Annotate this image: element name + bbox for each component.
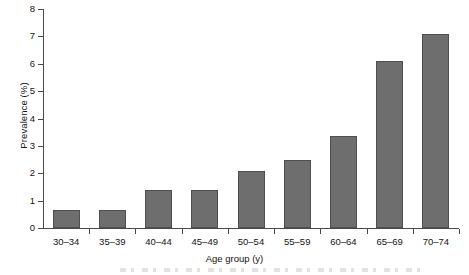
x-axis-tick <box>459 229 460 234</box>
y-axis-tick-label: 7 <box>20 31 35 40</box>
x-axis-tick <box>413 229 414 234</box>
x-axis-tick-label: 35–39 <box>89 236 135 247</box>
y-axis-tick-label: 6 <box>20 59 35 68</box>
x-axis-tick-label: 55–59 <box>274 236 320 247</box>
bar <box>376 61 403 228</box>
x-axis-tick-label: 65–69 <box>367 236 413 247</box>
y-axis-tick-label: 4 <box>20 114 35 123</box>
x-axis-tick-label: 70–74 <box>413 236 459 247</box>
x-axis-tick-label: 60–64 <box>320 236 366 247</box>
cut-off-caption-strip <box>120 268 420 272</box>
bar <box>53 210 80 228</box>
x-axis-tick-label: 45–49 <box>182 236 228 247</box>
bar <box>422 34 449 228</box>
bar <box>330 136 357 228</box>
x-axis-title: Age group (y) <box>0 253 469 264</box>
x-axis-line <box>43 228 459 229</box>
x-axis-tick <box>135 229 136 234</box>
bar <box>191 190 218 228</box>
bar <box>145 190 172 228</box>
x-axis-tick <box>274 229 275 234</box>
y-axis-tick-label: 2 <box>20 168 35 177</box>
bar-chart: Prevalence (%) 012345678 30–3435–3940–44… <box>0 0 469 275</box>
y-axis-tick-label: 5 <box>20 86 35 95</box>
x-axis-tick-label: 50–54 <box>228 236 274 247</box>
plot-area <box>43 9 459 228</box>
x-axis-tick <box>367 229 368 234</box>
x-axis-tick-label: 30–34 <box>43 236 89 247</box>
y-axis-tick-label: 1 <box>20 196 35 205</box>
bar <box>284 160 311 228</box>
x-axis-tick-label: 40–44 <box>135 236 181 247</box>
y-axis-tick-label: 0 <box>20 223 35 232</box>
x-axis-tick <box>228 229 229 234</box>
bar <box>99 210 126 228</box>
x-axis-tick <box>320 229 321 234</box>
x-axis-tick <box>182 229 183 234</box>
bar <box>238 171 265 228</box>
y-axis-tick-label: 8 <box>20 4 35 13</box>
x-axis-tick <box>89 229 90 234</box>
y-axis-tick-label: 3 <box>20 141 35 150</box>
